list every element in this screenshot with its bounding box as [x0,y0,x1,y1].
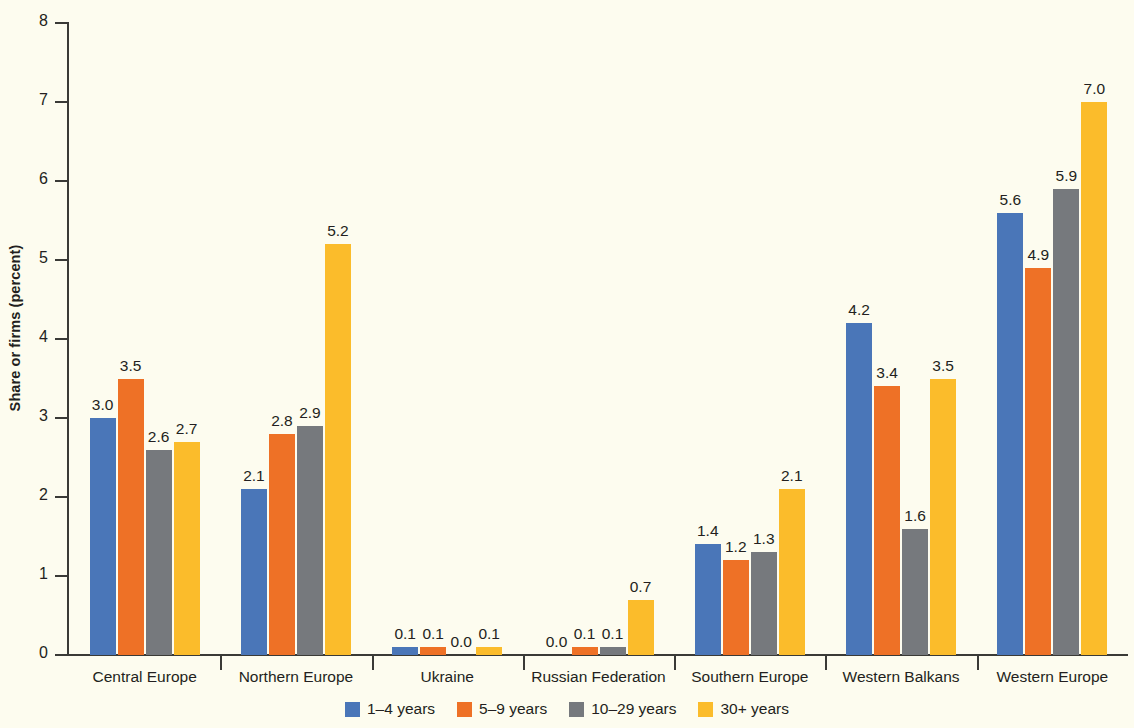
legend-swatch-icon [569,702,584,717]
chart-legend: 1–4 years5–9 years10–29 years30+ years [0,700,1134,718]
bar-value-label: 0.0 [450,633,472,651]
y-axis-title-text: Share or firms (percent) [7,244,23,411]
bar [269,434,295,655]
y-axis-tick-label: 3 [22,407,48,425]
bar [297,426,323,655]
legend-swatch-icon [345,702,360,717]
y-axis-tick [55,338,67,340]
bar-value-label: 2.1 [781,467,803,485]
bar [874,386,900,655]
bar-value-label: 0.0 [546,633,568,651]
y-axis-tick [55,259,67,261]
bar [751,552,777,655]
bar-value-label: 2.1 [243,467,265,485]
x-axis-category-label: Northern Europe [239,668,354,686]
bar [723,560,749,655]
bar-value-label: 7.0 [1084,80,1106,98]
x-axis-category-label: Western Balkans [843,668,960,686]
legend-label: 1–4 years [367,700,435,718]
bar-chart: Share or firms (percent) 012345678 Centr… [0,0,1134,728]
x-axis-category-label: Southern Europe [691,668,808,686]
bar [600,647,626,655]
bar [1025,268,1051,655]
y-axis-tick [55,22,67,24]
bar-value-label: 2.8 [271,412,293,430]
y-axis-tick-label: 6 [22,170,48,188]
bar [572,647,598,655]
y-axis-tick-label: 4 [22,328,48,346]
y-axis-tick [55,654,67,656]
legend-item[interactable]: 5–9 years [457,700,547,718]
bar-value-label: 3.5 [120,357,142,375]
x-axis-tick [372,656,374,670]
bar [174,442,200,655]
legend-label: 10–29 years [591,700,676,718]
bar-value-label: 4.9 [1028,246,1050,264]
legend-label: 5–9 years [479,700,547,718]
x-axis-category-label: Central Europe [93,668,197,686]
bar [420,647,446,655]
bar-value-label: 2.6 [148,428,170,446]
x-axis-category-label: Russian Federation [531,668,665,686]
y-axis-tick-label: 8 [22,12,48,30]
x-axis-category-label: Western Europe [996,668,1108,686]
bar-value-label: 4.2 [848,301,870,319]
legend-swatch-icon [457,702,472,717]
legend-swatch-icon [698,702,713,717]
bar-value-label: 0.1 [574,625,596,643]
bar-value-label: 5.9 [1056,167,1078,185]
x-axis-tick [220,656,222,670]
y-axis-tick-label: 5 [22,249,48,267]
x-axis-tick [523,656,525,670]
legend-item[interactable]: 10–29 years [569,700,676,718]
x-axis-tick [825,656,827,670]
bar [476,647,502,655]
bar [902,529,928,655]
bar [997,213,1023,655]
y-axis-tick-label: 0 [22,644,48,662]
y-axis-tick [55,417,67,419]
bar [628,600,654,655]
bar-value-label: 1.6 [904,507,926,525]
bar [779,489,805,655]
bar [695,544,721,655]
bar [118,379,144,656]
legend-label: 30+ years [720,700,789,718]
bar-value-label: 1.3 [753,530,775,548]
bar-value-label: 0.1 [478,625,500,643]
y-axis-tick-label: 1 [22,565,48,583]
y-axis-tick-label: 2 [22,486,48,504]
y-axis-tick-label: 7 [22,91,48,109]
x-axis-category-label: Ukraine [420,668,473,686]
bar [325,244,351,655]
legend-item[interactable]: 1–4 years [345,700,435,718]
bar [90,418,116,655]
bar [930,379,956,656]
x-axis-tick [674,656,676,670]
bar-value-label: 2.7 [176,420,198,438]
bar-value-label: 3.5 [932,357,954,375]
bar [1081,102,1107,655]
legend-item[interactable]: 30+ years [698,700,789,718]
plot-area: 3.03.52.62.72.12.82.95.20.10.10.00.10.00… [69,22,1128,655]
bar [1053,189,1079,655]
bar [241,489,267,655]
bar-value-label: 2.9 [299,404,321,422]
bar-value-label: 0.1 [394,625,416,643]
y-axis-tick [55,496,67,498]
y-axis-tick [55,180,67,182]
bar-value-label: 3.0 [92,396,114,414]
bar-value-label: 0.1 [422,625,444,643]
bar [846,323,872,655]
bar [392,647,418,655]
bar-value-label: 5.6 [1000,191,1022,209]
bar-value-label: 3.4 [876,364,898,382]
y-axis-tick [55,575,67,577]
bar-value-label: 0.7 [630,578,652,596]
y-axis-tick [55,101,67,103]
bar-value-label: 5.2 [327,222,349,240]
bar-value-label: 1.4 [697,522,719,540]
bar-value-label: 1.2 [725,538,747,556]
bar [146,450,172,655]
bar-value-label: 0.1 [602,625,624,643]
